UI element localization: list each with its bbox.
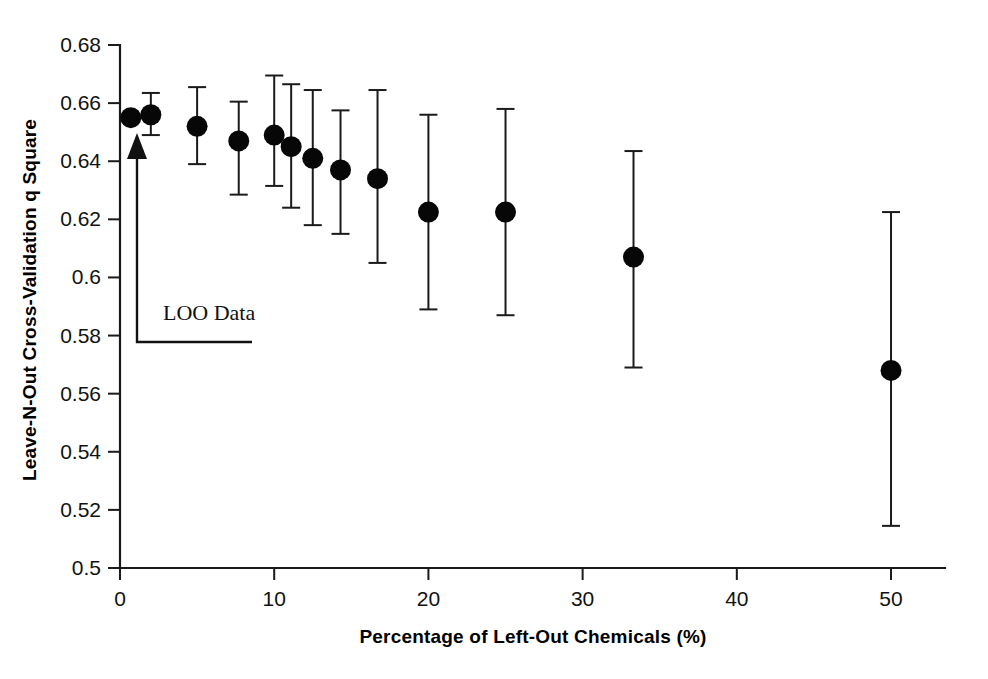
data-point-group — [228, 102, 249, 195]
data-point-group — [418, 115, 439, 310]
data-point-group — [495, 109, 516, 315]
data-point-marker — [228, 130, 249, 151]
chart-container: Leave-N-Out Cross-Validation q Square 0.… — [0, 0, 988, 679]
y-tick-label: 0.68 — [60, 33, 101, 56]
data-point-marker — [120, 107, 141, 128]
data-point-marker — [881, 360, 902, 381]
data-point-group — [264, 76, 285, 186]
data-point-marker — [495, 202, 516, 223]
y-tick-label: 0.58 — [60, 324, 101, 347]
data-point-group — [120, 107, 141, 128]
x-tick-label: 0 — [114, 587, 126, 610]
y-tick-label: 0.54 — [60, 440, 101, 463]
data-point-marker — [330, 159, 351, 180]
y-tick-label: 0.6 — [72, 265, 101, 288]
data-point-marker — [418, 202, 439, 223]
data-point-group — [330, 110, 351, 233]
data-point-group — [187, 87, 208, 164]
y-tick-label: 0.5 — [72, 556, 101, 579]
y-tick-label: 0.52 — [60, 498, 101, 521]
data-point-group — [881, 212, 902, 526]
x-tick-label: 10 — [263, 587, 286, 610]
data-point-marker — [281, 136, 302, 157]
data-point-marker — [367, 168, 388, 189]
y-tick-label: 0.62 — [60, 207, 101, 230]
x-tick-label: 30 — [571, 587, 594, 610]
data-point-marker — [140, 104, 161, 125]
data-point-marker — [623, 247, 644, 268]
x-axis-title: Percentage of Left-Out Chemicals (%) — [359, 626, 706, 647]
data-point-marker — [187, 116, 208, 137]
data-point-group — [281, 84, 302, 207]
data-point-marker — [264, 125, 285, 146]
scatter-plot-with-error-bars: Leave-N-Out Cross-Validation q Square 0.… — [0, 0, 988, 679]
data-point-group — [367, 90, 388, 263]
annotation-label: LOO Data — [163, 300, 255, 325]
x-tick-label: 50 — [879, 587, 902, 610]
x-tick-label: 20 — [417, 587, 440, 610]
x-axis-ticks: 01020304050 — [114, 568, 903, 610]
y-tick-label: 0.66 — [60, 91, 101, 114]
y-tick-label: 0.56 — [60, 382, 101, 405]
data-point-group — [140, 93, 161, 135]
annotation-arrowhead-icon — [127, 133, 147, 159]
data-point-group — [623, 151, 644, 367]
y-axis-ticks: 0.50.520.540.560.580.60.620.640.660.68 — [60, 33, 120, 579]
x-tick-label: 40 — [725, 587, 748, 610]
data-point-group — [302, 90, 323, 225]
data-point-marker — [302, 148, 323, 169]
y-tick-label: 0.64 — [60, 149, 101, 172]
y-axis-title: Leave-N-Out Cross-Validation q Square — [19, 119, 40, 481]
